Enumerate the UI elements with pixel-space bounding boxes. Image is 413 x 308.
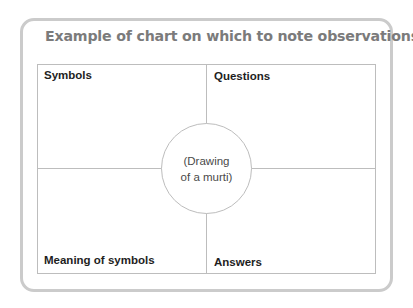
quadrant-meaning-label: Meaning of symbols [44, 254, 155, 266]
caption-line-1: (Drawing [181, 153, 233, 169]
murti-drawing-caption: (Drawing of a murti) [181, 153, 233, 185]
quadrant-symbols-label: Symbols [44, 69, 92, 81]
quadrant-questions-label: Questions [214, 70, 270, 82]
quadrant-answers-label: Answers [214, 256, 262, 268]
chart-title: Example of chart on which to note observ… [45, 28, 375, 44]
caption-line-2: of a murti) [181, 169, 233, 185]
murti-drawing-circle: (Drawing of a murti) [161, 123, 252, 214]
